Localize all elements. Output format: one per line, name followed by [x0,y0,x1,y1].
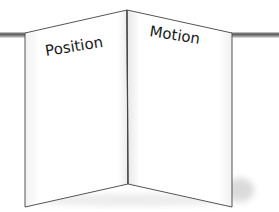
booklet-svg: Position Motion [0,0,279,212]
rail-left [0,32,27,38]
folded-booklet-diagram: Position Motion [0,0,279,212]
rail-right [231,32,279,38]
